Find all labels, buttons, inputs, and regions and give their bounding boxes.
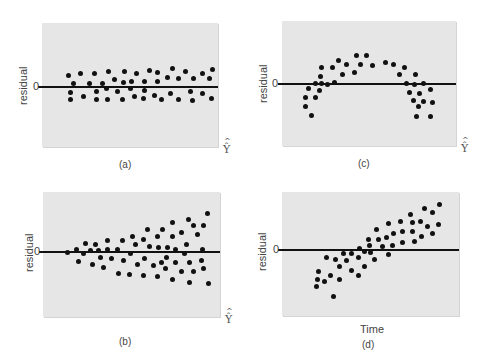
data-point xyxy=(325,82,330,87)
panel-a-xlabel-yhat: ^Ŷ xyxy=(223,143,230,156)
data-point xyxy=(173,247,178,252)
panel-b-zero-tick: 0 xyxy=(34,245,40,257)
data-point xyxy=(141,273,146,278)
data-point xyxy=(341,251,346,256)
data-point xyxy=(168,91,173,96)
data-point xyxy=(316,269,321,274)
data-point xyxy=(418,219,423,224)
data-point xyxy=(132,94,137,99)
data-point xyxy=(92,71,97,76)
data-point xyxy=(416,104,421,109)
data-point xyxy=(147,68,152,73)
data-point xyxy=(417,91,422,96)
data-point xyxy=(195,232,200,237)
data-point xyxy=(88,248,93,253)
data-point xyxy=(425,224,430,229)
data-point xyxy=(68,90,73,95)
data-point xyxy=(372,257,377,262)
data-point xyxy=(127,272,132,277)
data-point xyxy=(164,255,169,260)
data-point xyxy=(322,279,327,284)
data-point xyxy=(115,89,120,94)
data-point xyxy=(336,58,341,63)
data-point xyxy=(391,62,396,67)
data-point xyxy=(309,113,314,118)
data-point xyxy=(141,96,146,101)
data-point xyxy=(313,95,318,100)
data-point xyxy=(356,273,361,278)
data-point xyxy=(120,97,125,102)
data-point xyxy=(191,76,196,81)
data-point xyxy=(71,81,76,86)
data-point xyxy=(142,88,147,93)
data-point xyxy=(397,72,402,77)
data-point xyxy=(156,245,161,250)
panel-a-ylabel: residual xyxy=(17,66,29,105)
data-point xyxy=(159,260,164,265)
data-point xyxy=(173,260,178,265)
plot-area-b xyxy=(43,192,220,317)
data-point xyxy=(90,262,95,267)
data-point xyxy=(128,251,133,256)
panel-d-xlabel-time: Time xyxy=(360,323,384,335)
plot-area-c xyxy=(282,21,456,146)
data-point xyxy=(176,76,181,81)
data-point xyxy=(187,260,192,265)
data-point xyxy=(134,71,139,76)
data-point xyxy=(68,97,73,102)
data-point xyxy=(366,237,371,242)
data-point xyxy=(376,237,381,242)
panel-a-zero-tick: 0 xyxy=(33,80,39,92)
data-point xyxy=(155,79,160,84)
data-point xyxy=(112,77,117,82)
data-point xyxy=(170,277,175,282)
data-point xyxy=(179,230,184,235)
zero-line-c xyxy=(278,83,456,85)
data-point xyxy=(186,217,191,222)
data-point xyxy=(155,274,160,279)
data-point xyxy=(109,256,114,261)
data-point xyxy=(188,89,193,94)
data-point xyxy=(191,269,196,274)
data-point xyxy=(362,264,367,269)
data-point xyxy=(78,71,83,76)
data-point xyxy=(182,251,187,256)
data-point xyxy=(163,266,168,271)
data-point xyxy=(410,229,415,234)
data-point xyxy=(421,81,426,86)
data-point xyxy=(176,97,181,102)
data-point xyxy=(201,266,206,271)
panel-c-caption: (c) xyxy=(358,158,370,169)
panel-b-caption: (b) xyxy=(119,336,131,347)
data-point xyxy=(303,104,308,109)
panel-c-ylabel: residual xyxy=(257,64,269,103)
data-point xyxy=(128,86,133,91)
data-point xyxy=(81,251,86,256)
data-point xyxy=(200,71,205,76)
data-point xyxy=(380,244,385,249)
data-point xyxy=(428,114,433,119)
data-point xyxy=(402,65,407,70)
data-point xyxy=(428,87,433,92)
data-point xyxy=(104,86,109,91)
data-point xyxy=(183,69,188,74)
data-point xyxy=(135,262,140,267)
data-point xyxy=(96,248,101,253)
data-point xyxy=(332,80,337,85)
data-point xyxy=(330,65,335,70)
data-point xyxy=(105,97,110,102)
data-point xyxy=(151,263,156,268)
data-point xyxy=(315,277,320,282)
data-point xyxy=(430,210,435,215)
data-point xyxy=(400,229,405,234)
data-point xyxy=(314,284,319,289)
plot-area-d xyxy=(282,192,459,316)
data-point xyxy=(337,277,342,282)
data-point xyxy=(328,273,333,278)
data-point xyxy=(414,114,419,119)
data-point xyxy=(65,250,70,255)
panel-b-xlabel-yhat: ^Ŷ xyxy=(225,313,232,326)
data-point xyxy=(187,280,192,285)
data-point xyxy=(398,219,403,224)
data-point xyxy=(81,94,86,99)
